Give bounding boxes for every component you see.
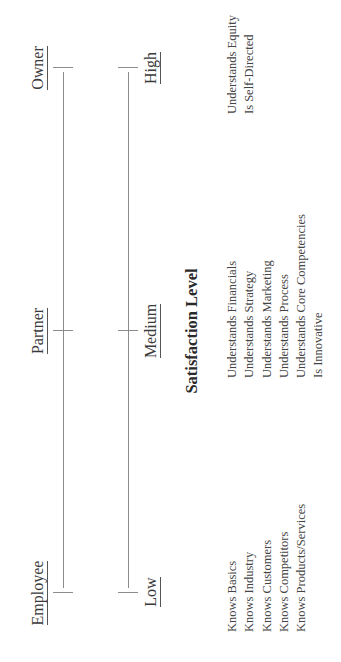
tick-employee (53, 592, 73, 593)
list-item: Understands Strategy (241, 214, 258, 378)
list-item: Understands Financials (224, 214, 241, 378)
label-medium: Medium (142, 271, 160, 391)
label-low: Low (142, 532, 160, 652)
list-item: Understands Equity (224, 15, 241, 114)
list-item: Knows Products/Services (293, 504, 310, 632)
list-item: Is Innovative (310, 214, 327, 378)
list-item: Understands Core Competencies (293, 214, 310, 378)
label-employee: Employee (29, 533, 47, 653)
label-owner: Owner (29, 8, 47, 128)
list-item: Is Self-Directed (241, 15, 258, 114)
tick-owner (53, 67, 73, 68)
list-item: Knows Customers (259, 504, 276, 632)
tick-partner (53, 330, 73, 331)
tick-high (118, 67, 138, 68)
partner-attributes: Understands Financials Understands Strat… (224, 214, 328, 378)
tick-low (118, 592, 138, 593)
list-item: Knows Industry (241, 504, 258, 632)
list-item: Knows Basics (224, 504, 241, 632)
owner-attributes: Understands Equity Is Self-Directed (224, 15, 259, 114)
label-partner: Partner (29, 271, 47, 391)
satisfaction-level-title: Satisfaction Level (182, 231, 202, 431)
list-item: Knows Competitors (276, 504, 293, 632)
employee-attributes: Knows Basics Knows Industry Knows Custom… (224, 504, 310, 632)
diagram-canvas: Employee Partner Owner Low Medium High S… (0, 0, 341, 662)
tick-medium (118, 330, 138, 331)
list-item: Understands Marketing (259, 214, 276, 378)
list-item: Understands Process (276, 214, 293, 378)
label-high: High (142, 8, 160, 128)
